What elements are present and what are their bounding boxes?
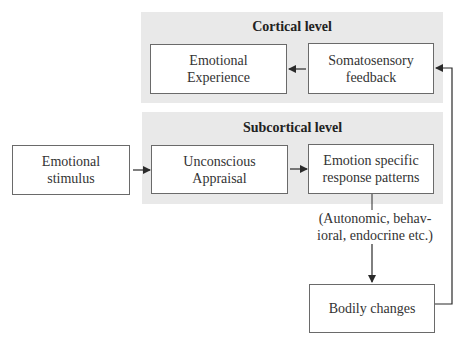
arrow-bodily-to-somatosensory: [435, 68, 452, 304]
connector-layer: [0, 0, 463, 343]
